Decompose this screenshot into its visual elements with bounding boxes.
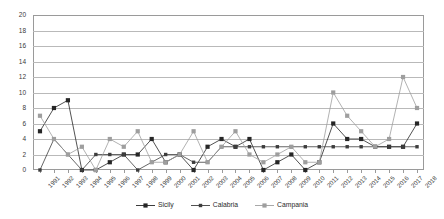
- data-point: [38, 129, 42, 133]
- data-point: [317, 160, 321, 164]
- data-point: [52, 106, 56, 110]
- data-point: [191, 129, 195, 133]
- series-sicily: [38, 98, 419, 172]
- data-point: [234, 145, 237, 148]
- data-point: [331, 121, 335, 125]
- data-point: [289, 145, 293, 149]
- data-point: [191, 168, 195, 172]
- series-layer: [0, 0, 444, 219]
- data-point: [401, 145, 404, 148]
- data-point: [136, 168, 139, 171]
- data-point: [205, 160, 209, 164]
- data-point: [387, 137, 391, 141]
- data-point: [66, 152, 70, 156]
- data-point: [373, 145, 377, 149]
- data-point: [387, 145, 390, 148]
- series-campania: [38, 75, 419, 172]
- data-point: [303, 168, 307, 172]
- data-point: [136, 129, 140, 133]
- data-point: [261, 160, 265, 164]
- legend-item-calabria[interactable]: Calabria: [191, 202, 238, 209]
- data-point: [331, 90, 335, 94]
- data-point: [303, 160, 307, 164]
- data-point: [150, 160, 154, 164]
- legend-marker-icon: [255, 202, 274, 209]
- data-point: [205, 145, 209, 149]
- data-point: [415, 121, 419, 125]
- data-point: [359, 137, 363, 141]
- data-point: [401, 75, 405, 79]
- data-point: [108, 137, 112, 141]
- data-point: [275, 160, 279, 164]
- line-chart: 02468101214161820 1991199219931994199519…: [0, 0, 444, 219]
- data-point: [289, 152, 293, 156]
- data-point: [192, 161, 195, 164]
- data-point: [178, 152, 182, 156]
- legend-marker-icon: [191, 202, 210, 209]
- data-point: [108, 160, 112, 164]
- data-point: [332, 145, 335, 148]
- data-point: [359, 129, 363, 133]
- legend-label: Sicily: [158, 202, 174, 209]
- data-point: [304, 145, 307, 148]
- data-point: [247, 152, 251, 156]
- data-point: [38, 168, 41, 171]
- legend-label: Calabria: [213, 202, 238, 209]
- data-point: [248, 145, 251, 148]
- data-point: [136, 152, 140, 156]
- legend-item-campania[interactable]: Campania: [255, 202, 308, 209]
- data-point: [94, 168, 98, 172]
- data-point: [345, 114, 349, 118]
- data-point: [150, 137, 154, 141]
- data-point: [80, 145, 84, 149]
- data-point: [359, 145, 362, 148]
- data-point: [52, 137, 56, 141]
- data-point: [345, 137, 349, 141]
- data-point: [415, 145, 418, 148]
- series-line: [40, 100, 417, 170]
- legend-label: Campania: [277, 202, 308, 209]
- legend-marker-icon: [136, 202, 155, 209]
- data-point: [233, 129, 237, 133]
- data-point: [94, 153, 97, 156]
- data-point: [164, 153, 167, 156]
- data-point: [275, 152, 279, 156]
- data-point: [122, 153, 125, 156]
- legend: SicilyCalabriaCampania: [0, 198, 444, 212]
- data-point: [262, 145, 265, 148]
- legend-item-sicily[interactable]: Sicily: [136, 202, 174, 209]
- data-point: [122, 145, 126, 149]
- data-point: [346, 145, 349, 148]
- data-point: [276, 145, 279, 148]
- data-point: [415, 106, 419, 110]
- data-point: [219, 137, 223, 141]
- data-point: [38, 114, 42, 118]
- data-point: [80, 168, 83, 171]
- data-point: [247, 137, 251, 141]
- data-point: [108, 153, 111, 156]
- data-point: [318, 145, 321, 148]
- data-point: [261, 168, 265, 172]
- data-point: [164, 160, 168, 164]
- data-point: [219, 145, 223, 149]
- data-point: [66, 98, 70, 102]
